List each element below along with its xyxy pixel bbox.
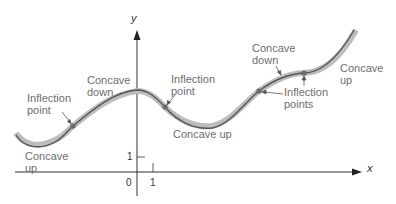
- origin-label: 0: [126, 177, 132, 188]
- label-concave-down-right: Concave down: [252, 42, 295, 66]
- inflection-point-4: [301, 70, 306, 75]
- label-inflection-point-middle: Inflection point: [171, 73, 215, 97]
- x-axis-arrow-icon: [352, 169, 362, 176]
- y-tick-label: 1: [127, 151, 133, 162]
- label-inflection-points-right: Inflection points: [284, 86, 328, 110]
- x-axis-label: x: [367, 162, 373, 174]
- label-concave-up-left: Concave up: [25, 150, 68, 174]
- y-axis-arrow-icon: [134, 30, 141, 40]
- label-concave-down-left: Concave down: [87, 74, 130, 98]
- x-tick-label: 1: [150, 177, 156, 188]
- label-concave-up-right: Concave up: [340, 62, 383, 86]
- label-concave-up-middle: Concave up: [173, 128, 232, 140]
- label-inflection-point-left: Inflection point: [27, 92, 71, 116]
- inflection-point-3: [256, 88, 261, 93]
- y-axis-label: y: [131, 12, 137, 24]
- pointer-right-inflection-1: [264, 92, 283, 94]
